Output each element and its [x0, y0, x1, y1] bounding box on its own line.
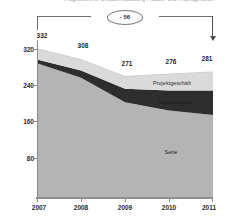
- value-label-2007: 332: [37, 32, 48, 39]
- x-axis-label-2010: 2010: [162, 204, 176, 211]
- delta-value-badge: - 56: [107, 10, 143, 25]
- chart-title: Prognostizierte Umsatzentwicklung Produk…: [44, 0, 234, 3]
- bracket-left-stem: [37, 16, 38, 30]
- y-axis-label-80: 80: [27, 154, 34, 161]
- y-axis-line: [37, 40, 38, 199]
- y-axis-label-240: 240: [23, 82, 34, 89]
- x-axis-label-2009: 2009: [118, 204, 132, 211]
- y-tick-mark: [34, 121, 37, 122]
- y-axis-label-320: 320: [23, 45, 34, 52]
- x-tick-mark: [37, 199, 38, 202]
- chart-screenshot: Prognostizierte Umsatzentwicklung Produk…: [0, 0, 237, 223]
- y-tick-mark: [34, 158, 37, 159]
- x-axis-label-2008: 2008: [74, 204, 88, 211]
- x-axis-label-2007: 2007: [32, 204, 46, 211]
- x-tick-mark: [81, 199, 82, 202]
- y-axis-label-160: 160: [23, 118, 34, 125]
- value-label-2010: 276: [166, 58, 177, 65]
- value-label-2009: 271: [122, 60, 133, 67]
- series-label-projektgeschaeft: Projektgeschäft: [153, 80, 191, 86]
- value-label-2008: 308: [78, 42, 89, 49]
- bracket-right-segment: [159, 16, 213, 17]
- plot-area: 320 240 160 80 2007 2008 2009 2010 2011 …: [37, 40, 213, 199]
- x-tick-mark: [125, 199, 126, 202]
- delta-bracket: - 56: [37, 16, 213, 42]
- bracket-right-stem: [212, 16, 213, 38]
- bracket-left-segment: [37, 16, 91, 17]
- x-axis-label-2011: 2011: [202, 204, 216, 211]
- y-tick-mark: [34, 85, 37, 86]
- y-tick-mark: [34, 49, 37, 50]
- series-label-opportunities: Opportunities: [159, 99, 192, 105]
- x-tick-mark: [212, 199, 213, 202]
- series-label-serie: Serie: [165, 149, 178, 155]
- value-label-2011: 281: [202, 55, 213, 62]
- x-tick-mark: [169, 199, 170, 202]
